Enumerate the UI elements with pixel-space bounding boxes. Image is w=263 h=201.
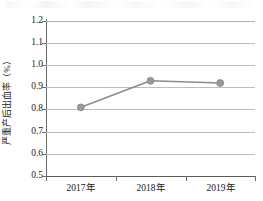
gridline bbox=[46, 109, 255, 110]
y-tick-label: 1.2 bbox=[17, 16, 43, 26]
scan-artifact bbox=[6, 1, 256, 8]
y-tick-label: 0.8 bbox=[17, 104, 43, 114]
y-tick-label: 0.5 bbox=[17, 171, 43, 181]
plot-area bbox=[46, 21, 255, 176]
chart-figure: 严重产后出血率（%） 1.2 1.1 1.0 0.9 0.8 0.7 0.6 0… bbox=[0, 0, 263, 201]
x-tick-mark bbox=[46, 176, 47, 181]
x-tick-mark bbox=[186, 176, 187, 181]
y-tick-label: 1.0 bbox=[17, 60, 43, 70]
x-axis-line bbox=[46, 176, 255, 177]
gridline bbox=[46, 132, 255, 133]
gridline bbox=[46, 65, 255, 66]
x-tick-label: 2018年 bbox=[116, 182, 186, 194]
y-tick-label: 1.1 bbox=[17, 38, 43, 48]
gridline bbox=[46, 87, 255, 88]
y-tick-label: 0.6 bbox=[17, 149, 43, 159]
x-tick-label: 2017年 bbox=[46, 182, 116, 194]
x-tick-mark bbox=[116, 176, 117, 181]
x-tick-mark bbox=[255, 176, 256, 181]
y-axis-tick-labels: 1.2 1.1 1.0 0.9 0.8 0.7 0.6 0.5 bbox=[16, 0, 43, 201]
gridline bbox=[46, 43, 255, 44]
x-tick-label: 2019年 bbox=[186, 182, 256, 194]
gridline bbox=[46, 21, 255, 22]
gridline bbox=[46, 154, 255, 155]
y-tick-label: 0.9 bbox=[17, 82, 43, 92]
y-tick-label: 0.7 bbox=[17, 127, 43, 137]
y-axis-title: 严重产后出血率（%） bbox=[0, 0, 14, 201]
